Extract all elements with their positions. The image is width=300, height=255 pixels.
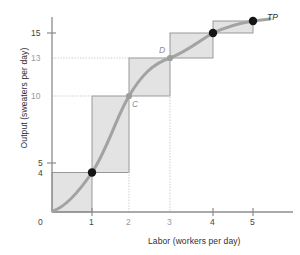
x-tick-label-3: 3 (167, 217, 172, 227)
mp-bar-3 (129, 58, 170, 96)
y-tick-label-10: 10 (31, 91, 40, 101)
curve-label-tp: TP (267, 12, 278, 22)
chart-plot-area (0, 0, 300, 255)
y-tick-label-4: 4 (38, 168, 43, 178)
marginal-product-bars (52, 21, 253, 212)
x-tick-label-4: 4 (210, 217, 215, 227)
y-axis-title: Output (sweaters per day) (19, 23, 29, 173)
y-tick-label-5: 5 (38, 158, 43, 168)
point-label-c: C (132, 99, 138, 109)
x-tick-label-5: 5 (250, 217, 255, 227)
x-axis-title: Labor (workers per day) (148, 236, 241, 246)
y-tick-label-13: 13 (31, 53, 40, 63)
marker-point-d (167, 55, 173, 61)
x-tick-label-1: 1 (89, 217, 94, 227)
total-product-chart: Output (sweaters per day) Labor (workers… (0, 0, 300, 255)
y-tick-label-0: 0 (38, 217, 43, 227)
marker-point-1 (88, 168, 96, 176)
marker-point-5 (249, 17, 257, 25)
x-tick-label-2: 2 (126, 217, 131, 227)
y-tick-label-15: 15 (31, 28, 40, 38)
total-product-curve (53, 21, 253, 211)
point-label-d: D (159, 45, 165, 55)
marker-point-4 (209, 29, 217, 37)
